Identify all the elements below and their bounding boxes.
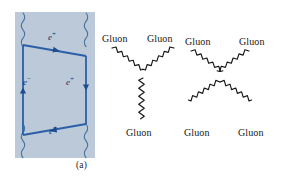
three-gluon-vertex xyxy=(112,47,174,119)
charge-superscript: − xyxy=(27,75,31,83)
particle-label-electron-left: e− xyxy=(23,78,31,87)
gluon-leg-v4-upper-left xyxy=(191,50,223,72)
gluon-label-v4-bottom-right: Gluon xyxy=(238,128,264,138)
photon-wavy-top-right xyxy=(84,13,87,47)
photon-wavy-top-left xyxy=(21,13,24,47)
particle-label-positron-bottom: e+ xyxy=(49,127,57,136)
gluon-leg-v4-upper-right xyxy=(217,50,249,72)
gluon-leg-v3-bottom xyxy=(139,78,145,119)
fermion-direction-arrows xyxy=(20,47,89,133)
gluon-label-v3-upper-left: Gluon xyxy=(102,34,128,44)
gluon-label-v4-bottom-left: Gluon xyxy=(184,128,210,138)
gluon-leg-v4-lower-right xyxy=(220,80,252,101)
four-gluon-vertex xyxy=(188,50,251,101)
panel-a-caption: (a) xyxy=(76,160,87,170)
gluon-label-v3-bottom: Gluon xyxy=(126,128,152,138)
particle-label-positron-right: e+ xyxy=(66,78,74,87)
gluon-leg-v3-upper-left xyxy=(112,47,144,70)
gluon-leg-v3-upper-right xyxy=(142,47,174,70)
gluon-leg-v4-lower-left xyxy=(188,80,220,101)
particle-label-positron-top: e+ xyxy=(48,33,56,42)
gluon-label-v4-top-left: Gluon xyxy=(185,37,211,47)
panel-b: Gluon Gluon Gluon Gluon Gluon Gluon Gluo… xyxy=(100,0,281,183)
panel-b-diagram xyxy=(100,0,281,183)
arrow-left xyxy=(20,88,26,94)
gluon-label-v4-top-right: Gluon xyxy=(239,37,265,47)
fermion-loop xyxy=(23,45,86,135)
charge-superscript: + xyxy=(53,124,57,132)
gluon-label-v3-upper-right: Gluon xyxy=(147,34,173,44)
charge-superscript: + xyxy=(52,30,56,38)
photon-wavy-bottom-right xyxy=(84,124,87,158)
arrow-right xyxy=(83,85,89,91)
figure-root: e+ e− e+ e+ (a) xyxy=(0,0,281,183)
charge-superscript: + xyxy=(70,75,74,83)
